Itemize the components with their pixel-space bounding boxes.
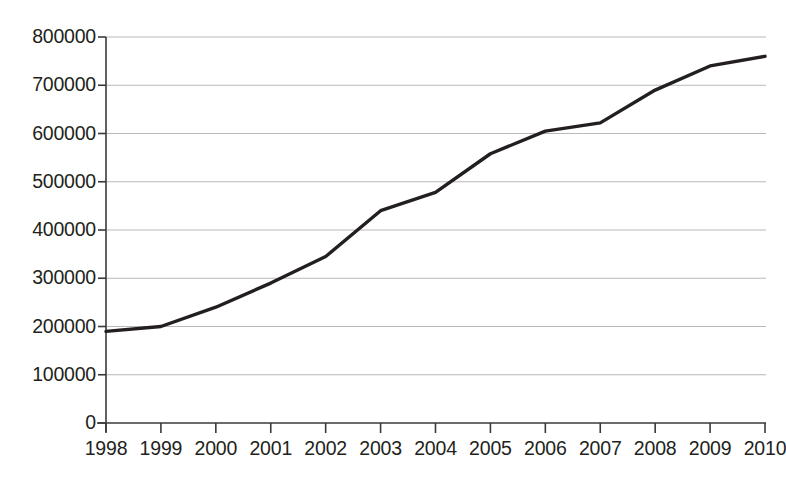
x-axis-tick-label: 2003 bbox=[359, 439, 402, 459]
y-axis-tick-label: 800000 bbox=[32, 27, 96, 47]
x-axis-tick-label: 2007 bbox=[579, 439, 622, 459]
data-line bbox=[106, 56, 765, 331]
y-axis-tick-label: 100000 bbox=[32, 365, 96, 385]
data-series bbox=[106, 56, 765, 331]
y-axis-tick-label: 300000 bbox=[32, 268, 96, 288]
x-axis-tick-label: 2005 bbox=[469, 439, 512, 459]
y-axis-tick-labels: 0100000200000300000400000500000600000700… bbox=[0, 0, 96, 483]
y-axis-ticks bbox=[98, 37, 106, 423]
y-axis-tick-label: 700000 bbox=[32, 75, 96, 95]
x-axis-tick-label: 2000 bbox=[195, 439, 238, 459]
x-axis-tick-label: 2008 bbox=[634, 439, 677, 459]
x-axis-tick-label: 2004 bbox=[414, 439, 457, 459]
x-axis-ticks bbox=[106, 423, 765, 433]
gridlines bbox=[106, 37, 766, 375]
y-axis-tick-label: 500000 bbox=[32, 172, 96, 192]
y-axis-tick-label: 400000 bbox=[32, 220, 96, 240]
x-axis-tick-label: 2009 bbox=[689, 439, 732, 459]
axis-lines bbox=[97, 37, 766, 432]
y-axis-tick-label: 200000 bbox=[32, 317, 96, 337]
x-axis-tick-label: 1999 bbox=[140, 439, 183, 459]
x-axis-tick-label: 2002 bbox=[304, 439, 347, 459]
y-axis-tick-label: 0 bbox=[85, 413, 96, 433]
x-axis-tick-label: 2001 bbox=[249, 439, 292, 459]
x-axis-tick-labels: 1998199920002001200220032004200520062007… bbox=[0, 433, 779, 473]
x-axis-tick-label: 2010 bbox=[744, 439, 786, 459]
x-axis-tick-label: 2006 bbox=[524, 439, 567, 459]
x-axis-tick-label: 1998 bbox=[85, 439, 128, 459]
y-axis-tick-label: 600000 bbox=[32, 124, 96, 144]
